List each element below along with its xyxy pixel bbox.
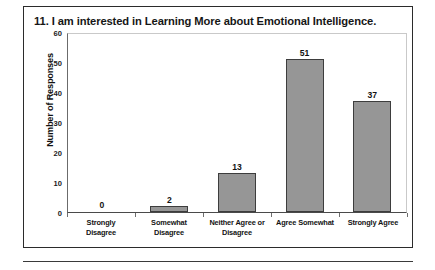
x-axis-category-line: Disagree	[68, 228, 134, 238]
y-axis-tick-label: 20	[32, 149, 62, 158]
bar[interactable]: 51	[286, 59, 324, 212]
x-axis-category-line: Disagree	[136, 228, 202, 238]
y-axis-tick-label: 40	[32, 89, 62, 98]
bar-value-label: 51	[300, 48, 310, 58]
x-axis-category-line: Neither Agree or	[204, 218, 270, 228]
x-axis-category-label: SomewhatDisagree	[135, 218, 203, 238]
x-axis-category-label: Strongly Agree	[339, 218, 407, 238]
x-axis-tick-mark	[67, 213, 68, 217]
x-axis-ticks	[67, 213, 407, 217]
figure-frame: 11. I am interested in Learning More abo…	[23, 6, 413, 248]
x-axis-category-label: Neither Agree orDisagree	[203, 218, 271, 238]
bar[interactable]: 2	[150, 206, 188, 212]
x-axis-tick-mark	[339, 213, 340, 217]
x-axis-tick-mark	[203, 213, 204, 217]
y-axis-ticks: 0102030405060	[32, 33, 62, 213]
x-axis-category-line: Disagree	[204, 228, 270, 238]
x-axis-category-line: Strongly	[68, 218, 134, 228]
x-axis-tick-mark	[407, 213, 408, 217]
bar-value-label: 2	[167, 195, 172, 205]
y-axis-tick-label: 10	[32, 179, 62, 188]
x-axis-category-line: Somewhat	[136, 218, 202, 228]
footer-rule	[23, 261, 413, 262]
bar-slot: 37	[338, 34, 406, 212]
plot-area: 02135137	[67, 33, 407, 213]
x-axis-tick-mark	[271, 213, 272, 217]
chart-plot: Number of Responses 0102030405060 021351…	[24, 33, 412, 247]
bar-series: 02135137	[68, 34, 406, 212]
x-axis-labels: StronglyDisagreeSomewhatDisagreeNeither …	[67, 218, 407, 238]
bar-slot: 51	[271, 34, 339, 212]
y-axis-tick-label: 50	[32, 59, 62, 68]
y-axis-tick-label: 30	[32, 119, 62, 128]
bar[interactable]: 37	[353, 101, 391, 212]
y-axis-tick-label: 0	[32, 209, 62, 218]
x-axis-tick-mark	[135, 213, 136, 217]
bar-value-label: 13	[232, 162, 242, 172]
x-axis-category-line: Agree Somewhat	[272, 218, 338, 228]
bar-value-label: 0	[99, 200, 104, 210]
chart-title: 11. I am interested in Learning More abo…	[34, 15, 410, 27]
y-axis-tick-label: 60	[32, 29, 62, 38]
bar-value-label: 37	[367, 90, 377, 100]
bar-slot: 2	[136, 34, 204, 212]
bar-slot: 13	[203, 34, 271, 212]
x-axis-category-label: Agree Somewhat	[271, 218, 339, 238]
bar[interactable]: 13	[218, 173, 256, 212]
x-axis-category-label: StronglyDisagree	[67, 218, 135, 238]
bar-slot: 0	[68, 34, 136, 212]
x-axis-category-line: Strongly Agree	[340, 218, 406, 228]
